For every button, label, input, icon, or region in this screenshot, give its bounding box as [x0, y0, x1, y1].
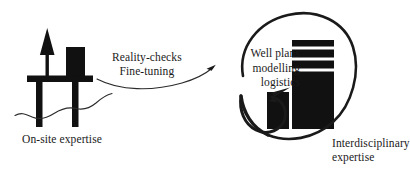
label-interdisciplinary-expertise: Interdisciplinary expertise: [332, 136, 410, 164]
label-modelling: modelling: [244, 61, 300, 76]
diagram-canvas: On-site expertise Reality-checks Fine-tu…: [0, 0, 410, 171]
label-capabilities: Well plans modelling logistics: [244, 46, 300, 90]
label-flow-annotations: Reality-checks Fine-tuning: [112, 50, 182, 78]
label-well-plans: Well plans: [244, 46, 300, 61]
rig-leg-right-icon: [72, 82, 79, 127]
label-fine-tuning: Fine-tuning: [112, 64, 182, 78]
derrick-tower-icon: [40, 28, 55, 55]
rig-deck-icon: [27, 76, 93, 83]
rig-leg-left-icon: [36, 82, 43, 127]
connector-arrowhead-icon: [207, 65, 216, 71]
label-onsite-expertise: On-site expertise: [22, 133, 102, 147]
label-interdisciplinary-line2: expertise: [332, 150, 410, 164]
label-logistics: logistics: [244, 75, 300, 90]
offshore-oil-rig-icon: [15, 28, 112, 127]
label-reality-checks: Reality-checks: [112, 50, 182, 64]
label-interdisciplinary-line1: Interdisciplinary: [332, 136, 410, 150]
rig-module-icon: [66, 47, 85, 76]
sea-wave-icon: [15, 94, 112, 119]
